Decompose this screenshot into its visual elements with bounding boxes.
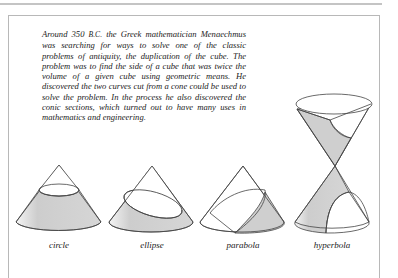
parabola-cone-icon [200,166,284,233]
label-parabola: parabola [203,240,283,250]
hyperbola-double-cone-icon [295,94,372,233]
ellipse-cone-icon [109,166,193,232]
label-circle: circle [19,240,99,250]
circle-cone-icon [16,165,101,230]
label-ellipse: ellipse [112,240,192,250]
label-hyperbola: hyperbola [292,240,372,250]
